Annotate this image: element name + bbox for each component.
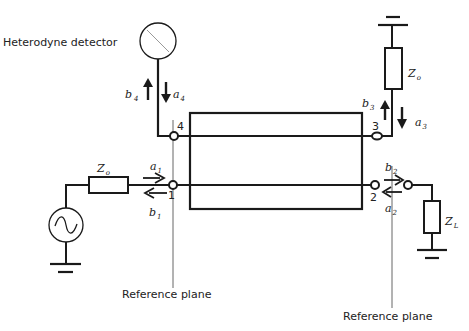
load-wire bbox=[412, 185, 432, 201]
a2-label: a2 bbox=[385, 202, 398, 217]
a4-label: a4 bbox=[173, 88, 185, 103]
port-2-label: 2 bbox=[370, 191, 377, 204]
port-4-terminal bbox=[170, 132, 178, 140]
port-2-terminal bbox=[371, 181, 379, 189]
detector-label: Heterodyne detector bbox=[3, 36, 118, 49]
a3-label: a3 bbox=[415, 116, 428, 131]
port-3-impedance-resistor bbox=[385, 48, 402, 89]
port-3-terminal bbox=[372, 133, 382, 140]
ac-source-icon bbox=[49, 208, 83, 242]
port-1-terminal bbox=[169, 181, 177, 189]
source-impedance-resistor bbox=[89, 177, 128, 193]
port-3-label: 3 bbox=[372, 120, 379, 133]
port-3-ground-icon bbox=[378, 17, 408, 25]
port-3-wire bbox=[382, 89, 392, 136]
port-1-label: 1 bbox=[168, 189, 175, 202]
load-impedance-resistor bbox=[424, 201, 440, 233]
load-ground-icon bbox=[417, 250, 447, 258]
port-4-label: 4 bbox=[177, 120, 184, 133]
b4-arrow-icon bbox=[143, 78, 153, 100]
source-ground-icon bbox=[50, 264, 81, 272]
b2-arrow-icon bbox=[384, 175, 403, 185]
source-impedance-label: Zo bbox=[96, 162, 110, 177]
a1-label: a1 bbox=[150, 160, 162, 175]
a3-arrow-icon bbox=[397, 107, 407, 129]
detector-icon bbox=[140, 23, 176, 59]
reference-plane-left-label: Reference plane bbox=[122, 288, 212, 301]
b1-label: b1 bbox=[149, 206, 162, 221]
b4-label: b4 bbox=[125, 88, 139, 103]
b1-arrow-icon bbox=[145, 188, 167, 198]
load-terminal bbox=[404, 181, 412, 189]
load-impedance-label: ZL bbox=[444, 215, 459, 230]
circuit-diagram: Heterodyne detector b4 a4 4 1 Zo bbox=[0, 0, 469, 331]
coupler-box bbox=[190, 113, 362, 209]
b2-label: b2 bbox=[385, 161, 398, 176]
port-3-impedance-label: Zo bbox=[407, 67, 421, 82]
source-wire bbox=[66, 185, 89, 208]
reference-plane-right-label: Reference plane bbox=[343, 310, 433, 323]
b3-label: b3 bbox=[362, 97, 375, 112]
a4-arrow-icon bbox=[161, 82, 171, 103]
a2-arrow-icon bbox=[383, 187, 402, 197]
b3-arrow-icon bbox=[380, 100, 390, 120]
